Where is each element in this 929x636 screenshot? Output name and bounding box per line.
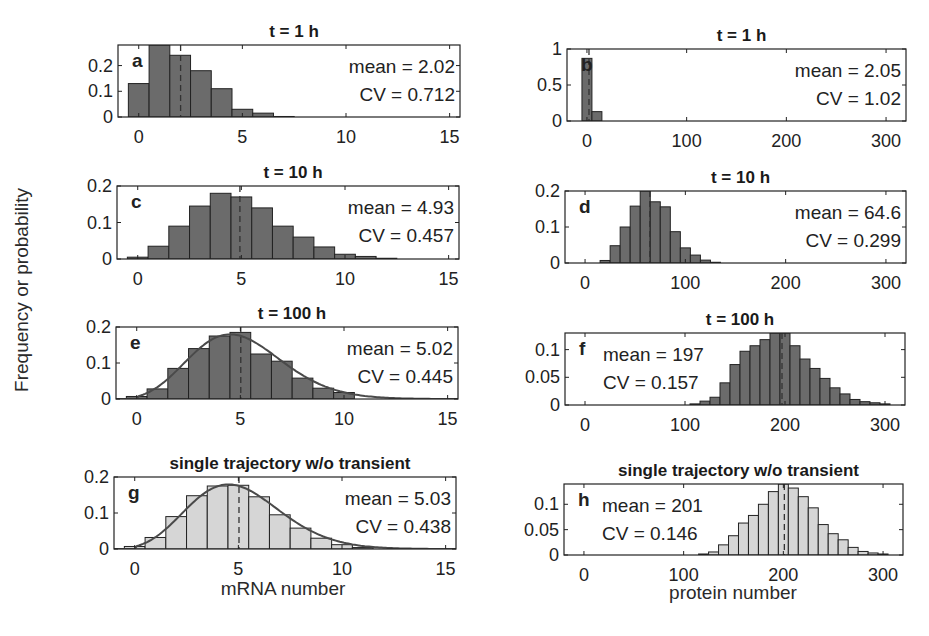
histogram-bar	[630, 206, 640, 263]
histogram-bar	[818, 525, 828, 555]
panel-h: 010020030000.050.1hmean = 201CV = 0.146	[524, 484, 903, 585]
stats-annotation: CV = 1.02	[816, 88, 901, 109]
y-axis-label: Frequency or probability	[11, 188, 33, 392]
histogram-bar	[190, 206, 211, 259]
histogram-bar	[207, 486, 228, 549]
x-tick-label: 5	[236, 269, 246, 289]
panel-title-h: single trajectory w/o transient	[618, 461, 859, 481]
stats-annotation: mean = 197	[603, 344, 704, 365]
panel-letter: c	[131, 191, 142, 212]
histogram-bar	[800, 359, 810, 405]
histogram-bar	[838, 540, 848, 555]
histogram-bar	[592, 112, 602, 121]
x-tick-label: 100	[672, 131, 702, 151]
histogram-bar	[828, 534, 838, 555]
y-tick-label: 0	[103, 107, 113, 127]
histogram-bar	[148, 246, 169, 259]
y-tick-label: 0	[550, 395, 560, 415]
histogram-bar	[311, 538, 332, 549]
panel-f: 010020030000.050.1fmean = 197CV = 0.157	[525, 333, 905, 435]
panel-title-a: t = 1 h	[269, 22, 319, 42]
y-tick-label: 0	[552, 111, 562, 131]
panel-letter: d	[579, 196, 591, 217]
x-tick-label: 5	[237, 127, 247, 147]
x-tick-label: 200	[771, 131, 801, 151]
x-tick-label: 100	[670, 273, 700, 293]
x-tick-label: 0	[130, 559, 140, 579]
x-tick-label: 0	[132, 409, 142, 429]
stats-annotation: mean = 201	[602, 495, 703, 516]
y-tick-label: 0	[99, 539, 109, 559]
histogram-bar	[830, 388, 840, 405]
panel-title-e: t = 100 h	[258, 304, 327, 324]
histogram-bar	[251, 354, 272, 399]
histogram-bar	[738, 523, 748, 555]
panel-d: 010020030000.10.2dmean = 64.6CV = 0.299	[535, 181, 906, 293]
histogram-bar	[169, 226, 190, 259]
histogram-bar	[191, 71, 212, 117]
histogram-bar	[269, 515, 290, 549]
histogram-bar	[850, 399, 860, 405]
stats-annotation: CV = 0.712	[359, 84, 455, 105]
histogram-bar	[272, 226, 293, 259]
x-axis-label-protein: protein number	[669, 582, 797, 604]
histogram-bar	[750, 346, 760, 405]
stats-annotation: CV = 0.157	[603, 372, 699, 393]
histogram-bar	[168, 368, 189, 399]
y-tick-label: 0	[102, 249, 112, 269]
histogram-bar	[145, 537, 166, 549]
y-tick-label: 0.2	[535, 181, 560, 201]
x-tick-label: 5	[233, 559, 243, 579]
histogram-bar	[187, 496, 208, 549]
y-tick-label: 0.05	[524, 520, 559, 540]
histogram-bar	[740, 351, 750, 405]
histogram-bar	[211, 89, 232, 117]
x-tick-label: 15	[436, 559, 456, 579]
plot-area	[699, 484, 888, 555]
histogram-bar	[788, 488, 798, 555]
x-tick-label: 0	[580, 273, 590, 293]
x-tick-label: 0	[580, 415, 590, 435]
histogram-bar	[748, 515, 758, 555]
y-tick-label: 0.5	[537, 75, 562, 95]
histogram-bar	[640, 191, 650, 263]
stats-annotation: mean = 5.02	[347, 338, 453, 359]
figure-canvas: 05101500.10.2amean = 2.02CV = 0.71201002…	[0, 0, 929, 636]
y-tick-label: 0.2	[86, 317, 111, 337]
plot-area	[600, 191, 720, 263]
panel-c: 05101500.10.2cmean = 4.93CV = 0.457	[87, 176, 459, 289]
stats-annotation: mean = 64.6	[795, 202, 901, 223]
stats-annotation: CV = 0.299	[805, 230, 901, 251]
y-tick-label: 0.1	[535, 217, 560, 237]
histogram-bar	[848, 547, 858, 555]
y-tick-label: 0.2	[84, 467, 109, 487]
x-tick-label: 200	[770, 415, 800, 435]
panel-letter: g	[128, 482, 140, 503]
histogram-bar	[729, 536, 739, 555]
panel-title-c: t = 10 h	[263, 163, 322, 183]
y-tick-label: 0.1	[87, 213, 112, 233]
histogram-bar	[252, 208, 273, 259]
y-tick-label: 0.05	[525, 367, 560, 387]
x-tick-label: 10	[336, 127, 356, 147]
stats-annotation: CV = 0.438	[355, 516, 451, 537]
panel-letter: h	[578, 489, 590, 510]
histogram-bar	[209, 336, 230, 399]
y-tick-label: 0	[550, 253, 560, 273]
histogram-bar	[292, 378, 313, 399]
x-tick-label: 15	[438, 409, 458, 429]
histogram-bar	[128, 84, 149, 117]
histogram-bar	[719, 545, 729, 555]
histogram-bar	[798, 497, 808, 555]
histogram-bar	[210, 193, 231, 259]
histogram-bar	[650, 202, 660, 263]
y-tick-label: 0.2	[88, 56, 113, 76]
plot-area	[690, 333, 890, 405]
plot-area	[128, 45, 294, 117]
x-tick-label: 15	[440, 127, 460, 147]
y-tick-label: 0.1	[86, 353, 111, 373]
stats-annotation: mean = 5.03	[345, 488, 451, 509]
y-tick-label: 0.1	[534, 494, 559, 514]
histogram-bar	[149, 45, 170, 117]
histogram-bar	[808, 508, 818, 555]
